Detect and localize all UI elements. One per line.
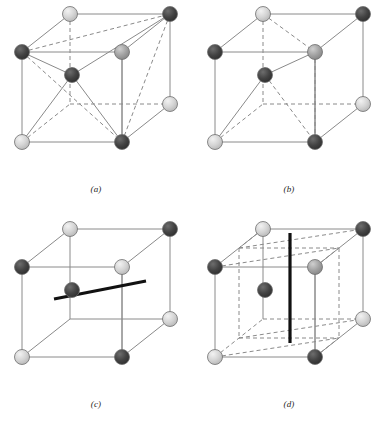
atom-body-centre[interactable] — [65, 283, 80, 298]
cube-edges — [22, 229, 170, 357]
atom-back-bottom-right[interactable] — [163, 97, 178, 112]
panel-a-svg — [0, 0, 192, 180]
atom-front-top-left[interactable] — [15, 260, 30, 275]
atom-back-top-left[interactable] — [63, 222, 78, 237]
atom-back-bottom-right[interactable] — [356, 97, 371, 112]
atom-front-top-right[interactable] — [115, 260, 130, 275]
atom-back-bottom-right[interactable] — [163, 312, 178, 327]
atom-back-top-right[interactable] — [163, 7, 178, 22]
atom-front-top-left[interactable] — [15, 45, 30, 60]
panel-b: (b) — [193, 0, 385, 215]
panel-a: (a) — [0, 0, 192, 215]
cube-edges — [215, 14, 363, 142]
atom-front-top-right[interactable] — [308, 45, 323, 60]
atom-front-top-left[interactable] — [208, 260, 223, 275]
atom-front-top-left[interactable] — [208, 45, 223, 60]
face-diagonals-dashed — [22, 14, 170, 142]
panel-c-caption: (c) — [0, 399, 192, 409]
panel-b-caption: (b) — [193, 184, 385, 194]
panel-a-caption: (a) — [0, 184, 192, 194]
atom-front-bottom-right[interactable] — [308, 135, 323, 150]
atom-front-bottom-left[interactable] — [15, 350, 30, 365]
cube-hidden-edges — [22, 14, 170, 142]
centre-bonds — [215, 52, 315, 142]
cube-edges — [22, 14, 170, 142]
panel-d: (d) — [193, 215, 385, 430]
atom-back-bottom-right[interactable] — [356, 312, 371, 327]
atom-back-top-right[interactable] — [163, 222, 178, 237]
atom-front-bottom-right[interactable] — [115, 135, 130, 150]
centre-bonds — [22, 14, 170, 142]
panel-c: (c) — [0, 215, 192, 430]
atom-front-bottom-left[interactable] — [208, 350, 223, 365]
atom-body-centre[interactable] — [258, 283, 273, 298]
panel-c-svg — [0, 215, 192, 395]
atom-body-centre[interactable] — [258, 68, 273, 83]
figure-container: (a) — [0, 0, 385, 430]
panel-d-caption: (d) — [193, 399, 385, 409]
atom-back-top-left[interactable] — [63, 7, 78, 22]
cube-hidden-edges — [215, 104, 363, 142]
atom-front-bottom-left[interactable] — [15, 135, 30, 150]
atom-front-bottom-right[interactable] — [308, 350, 323, 365]
atom-front-top-right[interactable] — [115, 45, 130, 60]
atom-back-top-right[interactable] — [356, 222, 371, 237]
atom-back-top-left[interactable] — [256, 222, 271, 237]
atom-front-bottom-right[interactable] — [115, 350, 130, 365]
atom-front-top-right[interactable] — [308, 260, 323, 275]
atom-back-top-right[interactable] — [356, 7, 371, 22]
atom-body-centre[interactable] — [65, 68, 80, 83]
atom-front-bottom-left[interactable] — [208, 135, 223, 150]
atom-back-top-left[interactable] — [256, 7, 271, 22]
panel-d-svg — [193, 215, 385, 395]
panel-b-svg — [193, 0, 385, 180]
